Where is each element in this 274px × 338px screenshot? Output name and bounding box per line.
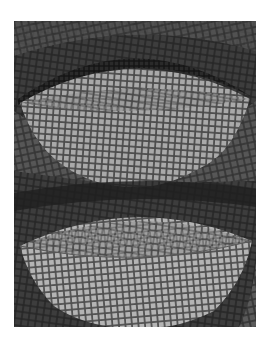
mosaic-artwork: Mosaic of two bowls (14, 21, 256, 327)
mosaic-canvas (14, 21, 256, 327)
